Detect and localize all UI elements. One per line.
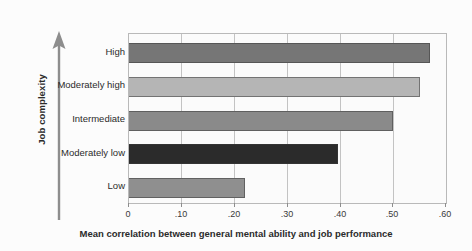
bar-row [129, 144, 338, 164]
tick-mark-0.60 [445, 203, 446, 207]
tick-mark-0.10 [181, 203, 182, 207]
tick-mark-0 [128, 203, 129, 207]
up-arrow-icon [51, 30, 67, 220]
bar-row [129, 43, 430, 63]
bar-low[interactable] [129, 178, 245, 198]
bar-moderately-high[interactable] [129, 77, 420, 97]
bar-row [129, 77, 420, 97]
bar-row [129, 111, 393, 131]
tick-label-0.60: .60 [425, 209, 465, 219]
bar-moderately-low[interactable] [129, 144, 338, 164]
tick-mark-0.40 [340, 203, 341, 207]
tick-label-0: 0 [108, 209, 148, 219]
tick-mark-0.20 [234, 203, 235, 207]
chart-figure: Job complexity High Moderately high Inte… [0, 0, 472, 251]
category-label-low: Low [5, 180, 125, 191]
category-label-moderately-high: Moderately high [5, 79, 125, 90]
category-label-intermediate: Intermediate [5, 113, 125, 124]
category-label-high: High [5, 46, 125, 57]
tick-label-0.30: .30 [267, 209, 307, 219]
tick-mark-0.50 [392, 203, 393, 207]
bar-intermediate[interactable] [129, 111, 393, 131]
bar-high[interactable] [129, 43, 430, 63]
tick-mark-0.30 [287, 203, 288, 207]
tick-label-0.10: .10 [161, 209, 201, 219]
category-label-moderately-low: Moderately low [5, 147, 125, 158]
tick-label-0.50: .50 [372, 209, 412, 219]
bar-row [129, 178, 245, 198]
tick-label-0.40: .40 [320, 209, 360, 219]
y-axis-arrow [51, 30, 67, 220]
plot-area [128, 33, 447, 204]
tick-label-0.20: .20 [214, 209, 254, 219]
x-axis-title: Mean correlation between general mental … [0, 228, 472, 239]
